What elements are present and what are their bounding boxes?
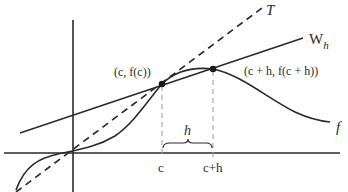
label-f: f [336, 119, 342, 135]
label-Wh-main: W [309, 31, 324, 47]
label-T: T [266, 2, 276, 18]
label-brace-h: h [184, 123, 191, 138]
label-Wh: Wh [309, 31, 329, 51]
point-c [159, 81, 166, 88]
label-point-c: (c, f(c)) [114, 65, 151, 79]
tangent-line-T [16, 8, 262, 192]
brace-h [163, 139, 212, 148]
diagram-canvas: T Wh f (c, f(c)) (c + h, f(c + h)) c c+h… [0, 0, 348, 192]
label-point-c-plus-h: (c + h, f(c + h)) [244, 64, 318, 78]
label-tick-c-plus-h: c+h [203, 160, 223, 175]
point-c-plus-h [210, 66, 217, 73]
label-Wh-sub: h [323, 39, 329, 51]
function-curve-f [16, 68, 330, 190]
label-tick-c: c [158, 160, 164, 175]
